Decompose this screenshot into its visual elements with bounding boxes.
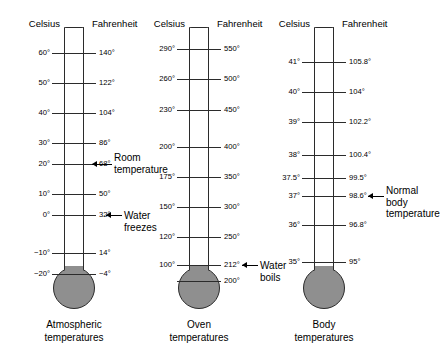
annotation-line: Water — [260, 260, 286, 272]
tick-label-fahrenheit: 96.8° — [349, 221, 389, 229]
tick-line — [52, 253, 96, 254]
tick-line — [177, 147, 221, 148]
tick-line — [52, 53, 96, 54]
tick-label-celsius: 20° — [16, 160, 50, 168]
tick-line — [177, 49, 221, 50]
tick-label-celsius: 40° — [266, 88, 300, 96]
tick-line — [52, 164, 96, 165]
tick-label-fahrenheit: 500° — [224, 75, 264, 83]
annotation-line: Water — [124, 210, 157, 222]
tick-label-celsius: 40° — [16, 109, 50, 117]
caption-body: Bodytemperatures — [254, 318, 394, 344]
tick-label-celsius: −20° — [16, 270, 50, 278]
annotation-normal-body-temperature: Normalbodytemperature — [386, 185, 440, 220]
tick-line — [177, 281, 221, 282]
tick-label-celsius: 30° — [16, 139, 50, 147]
annotation-line: body — [386, 197, 440, 209]
caption-line-2: temperatures — [254, 331, 394, 344]
tick-label-celsius: 37.5° — [266, 174, 300, 182]
tick-line — [302, 225, 346, 226]
annotation-arrow-normal-body-temperature — [368, 196, 384, 197]
tick-label-fahrenheit: 104° — [349, 88, 389, 96]
tick-label-fahrenheit: 102.2° — [349, 118, 389, 126]
annotation-arrow-water-freezes — [106, 215, 122, 216]
annotation-line: temperature — [114, 164, 168, 176]
tick-label-celsius: 0° — [16, 211, 50, 219]
annotation-line: Normal — [386, 185, 440, 197]
tick-label-celsius: 41° — [266, 58, 300, 66]
tick-label-celsius: 120° — [141, 233, 175, 241]
tick-line — [177, 265, 221, 266]
tick-label-celsius: 100° — [141, 261, 175, 269]
tick-label-fahrenheit: 550° — [224, 45, 264, 53]
thermometer-tube-oven — [189, 27, 209, 288]
tick-label-celsius: 36° — [266, 221, 300, 229]
tick-line — [302, 155, 346, 156]
tick-line — [177, 79, 221, 80]
tick-label-celsius: 200° — [141, 143, 175, 151]
caption-line-1: Body — [254, 318, 394, 331]
annotation-line: Room — [114, 152, 168, 164]
thermometer-tube-atmospheric — [64, 27, 84, 288]
tick-line — [177, 237, 221, 238]
bulb-neck-oven — [190, 266, 208, 289]
tick-label-celsius: 50° — [16, 79, 50, 87]
tick-label-fahrenheit: 104° — [99, 109, 139, 117]
tick-label-celsius: −10° — [16, 249, 50, 257]
tick-label-fahrenheit: 400° — [224, 143, 264, 151]
tick-line — [302, 196, 346, 197]
tick-label-fahrenheit: 100.4° — [349, 151, 389, 159]
tick-label-fahrenheit: 300° — [224, 203, 264, 211]
tick-label-fahrenheit: 250° — [224, 233, 264, 241]
tick-label-celsius: 37° — [266, 192, 300, 200]
tick-label-celsius: 260° — [141, 75, 175, 83]
annotation-arrow-room-temperature — [92, 164, 112, 165]
tick-line — [52, 274, 96, 275]
annotation-water-boils: Waterboils — [260, 260, 286, 283]
tick-label-fahrenheit: 14° — [99, 249, 139, 257]
tick-label-celsius: 290° — [141, 45, 175, 53]
tick-line — [177, 207, 221, 208]
tick-line — [52, 83, 96, 84]
tick-label-fahrenheit: 140° — [99, 49, 139, 57]
tick-label-celsius: 39° — [266, 118, 300, 126]
tick-label-celsius: 230° — [141, 106, 175, 114]
tick-line — [52, 113, 96, 114]
bulb-neck-atmospheric — [65, 266, 83, 289]
tick-label-fahrenheit: 200° — [224, 277, 264, 285]
tick-label-celsius: 10° — [16, 190, 50, 198]
tick-label-fahrenheit: 86° — [99, 139, 139, 147]
bulb-neck-body — [315, 266, 333, 289]
annotation-line: boils — [260, 272, 286, 284]
tick-line — [302, 262, 346, 263]
tick-line — [302, 62, 346, 63]
annotation-line: temperature — [386, 208, 440, 220]
celsius-header-body: Celsius — [250, 18, 310, 29]
tick-label-celsius: 38° — [266, 151, 300, 159]
tick-label-fahrenheit: 122° — [99, 79, 139, 87]
annotation-line: freezes — [124, 222, 157, 234]
tick-label-fahrenheit: 95° — [349, 258, 389, 266]
tick-line — [52, 143, 96, 144]
tick-line — [177, 177, 221, 178]
annotation-room-temperature: Roomtemperature — [114, 152, 168, 175]
tick-label-fahrenheit: −4° — [99, 270, 139, 278]
tick-label-celsius: 60° — [16, 49, 50, 57]
tick-label-fahrenheit: 105.8° — [349, 58, 389, 66]
fahrenheit-header-body: Fahrenheit — [342, 18, 412, 29]
annotation-water-freezes: Waterfreezes — [124, 210, 157, 233]
annotation-arrow-water-boils — [242, 265, 258, 266]
tick-label-fahrenheit: 50° — [99, 190, 139, 198]
tick-line — [302, 178, 346, 179]
tick-label-fahrenheit: 450° — [224, 106, 264, 114]
tick-line — [302, 92, 346, 93]
tick-label-fahrenheit: 99.5° — [349, 174, 389, 182]
thermometer-tube-body — [314, 27, 334, 288]
tick-line — [52, 215, 96, 216]
tick-line — [52, 194, 96, 195]
tick-label-fahrenheit: 350° — [224, 173, 264, 181]
tick-line — [302, 122, 346, 123]
tick-line — [177, 110, 221, 111]
